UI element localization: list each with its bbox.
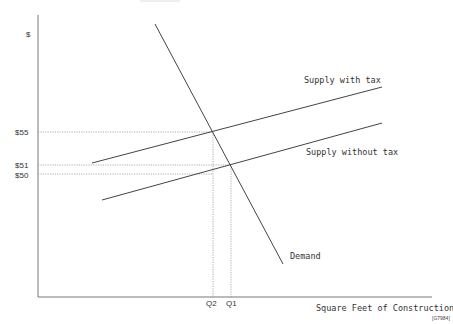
supply-demand-tax-chart: $ $55 $51 $50 Q2 Q1 Square Feet of Const… xyxy=(0,0,453,324)
y-tick-50: $50 xyxy=(15,171,29,180)
supply-without-tax-label: Supply without tax xyxy=(306,147,398,157)
x-axis-label: Square Feet of Construction xyxy=(316,303,453,313)
y-tick-55: $55 xyxy=(15,128,29,137)
guide-p51 xyxy=(38,165,231,297)
supply-with-tax-label: Supply with tax xyxy=(304,75,381,85)
figure-tag: [G7984] xyxy=(432,315,450,321)
demand-label: Demand xyxy=(290,251,321,261)
x-tick-q1: Q1 xyxy=(226,299,237,308)
demand-curve xyxy=(155,24,283,264)
x-tick-q2: Q2 xyxy=(206,299,217,308)
y-tick-51: $51 xyxy=(15,161,29,170)
y-axis-label: $ xyxy=(26,30,31,39)
guide-p55 xyxy=(38,132,213,297)
supply-without-tax-curve xyxy=(102,123,382,200)
